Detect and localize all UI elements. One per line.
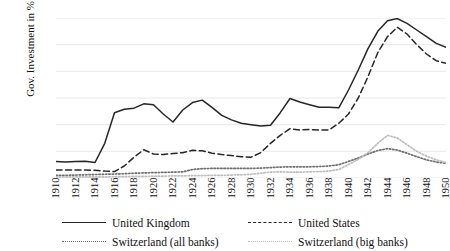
solid-line-icon: [62, 222, 106, 225]
plot-area: [56, 18, 446, 178]
x-tick-label: 1944: [382, 182, 394, 216]
series-line-united-kingdom: [56, 19, 446, 163]
x-tick-label: 1942: [362, 182, 374, 216]
x-tick-label: 1916: [109, 182, 121, 216]
x-tick-label: 1910: [50, 182, 62, 216]
x-tick-label: 1940: [343, 182, 355, 216]
x-tick-label: 1930: [245, 182, 257, 216]
legend-label: Switzerland (all banks): [112, 235, 219, 249]
legend-label: United States: [298, 216, 360, 230]
series-line-united-states: [56, 27, 446, 171]
x-tick-label: 1918: [128, 182, 140, 216]
x-tick-label: 1946: [401, 182, 413, 216]
x-tick-label: 1938: [323, 182, 335, 216]
x-tick-label: 1948: [421, 182, 433, 216]
x-tick-label: 1936: [304, 182, 316, 216]
x-tick-label: 1928: [226, 182, 238, 216]
plot-svg: [56, 18, 446, 178]
x-tick-label: 1920: [148, 182, 160, 216]
dashed-line-icon: [248, 222, 292, 225]
y-axis-title: Gov. Investment in % Total Assets: [23, 0, 37, 109]
x-tick-label: 1950: [440, 182, 450, 216]
series-line-switzerland-big-banks: [56, 135, 446, 177]
dotted-line-icon: [62, 241, 106, 244]
x-tick-label: 1926: [206, 182, 218, 216]
chart-legend: United KingdomUnited StatesSwitzerland (…: [0, 216, 450, 251]
x-tick-label: 1924: [187, 182, 199, 216]
x-tick-label: 1932: [265, 182, 277, 216]
x-tick-label: 1914: [89, 182, 101, 216]
x-tick-label: 1922: [167, 182, 179, 216]
x-tick-label: 1934: [284, 182, 296, 216]
legend-label: United Kingdom: [112, 216, 190, 230]
legend-label: Switzerland (big banks): [298, 235, 408, 249]
line-chart: Gov. Investment in % Total Assets 0%10%2…: [0, 0, 450, 251]
dotted-line-light-icon: [248, 241, 292, 244]
x-tick-label: 1912: [70, 182, 82, 216]
